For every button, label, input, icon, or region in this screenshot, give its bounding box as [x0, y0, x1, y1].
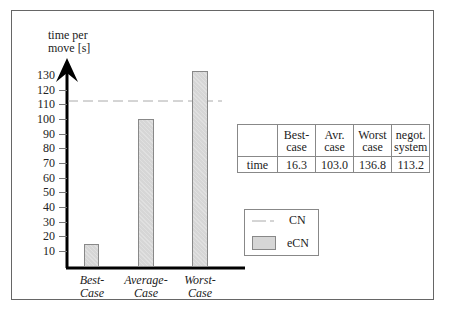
- tick-mark: [59, 163, 67, 164]
- tick-mark: [59, 119, 67, 120]
- tick-label: 10: [31, 244, 55, 259]
- tick-mark: [59, 222, 67, 223]
- x-label-line: Case: [62, 287, 122, 300]
- legend: CN eCN: [244, 209, 319, 256]
- table-header-row: Best-case Avr.case Worstcase negot.syste…: [238, 125, 430, 157]
- table-cell: 113.2: [392, 157, 430, 173]
- tick-label: 30: [31, 215, 55, 230]
- tick-mark: [59, 134, 67, 135]
- table-row: time 16.3 103.0 136.8 113.2: [238, 157, 430, 173]
- tick-mark: [59, 207, 67, 208]
- legend-label-cn: CN: [289, 213, 306, 228]
- bar-worst-case: [192, 71, 208, 267]
- table-header-cell: Avr.case: [316, 125, 354, 157]
- tick-label: 80: [31, 141, 55, 156]
- table-cell: 136.8: [354, 157, 392, 173]
- tick-mark: [59, 148, 67, 149]
- tick-mark: [59, 90, 67, 91]
- tick-mark: [59, 192, 67, 193]
- tick-label: 130: [31, 68, 55, 83]
- x-label-best-case: Best- Case: [62, 274, 122, 300]
- table-cell: 16.3: [278, 157, 316, 173]
- tick-label: 110: [31, 97, 55, 112]
- cn-legend-line-icon: [252, 219, 274, 223]
- bar-average-case: [138, 119, 154, 267]
- tick-label: 90: [31, 127, 55, 142]
- table-header-cell: [238, 125, 278, 157]
- tick-label: 70: [31, 156, 55, 171]
- ecn-legend-swatch-icon: [252, 236, 276, 250]
- table-header-cell: negot.system: [392, 125, 430, 157]
- x-label-worst-case: Worst- Case: [170, 274, 230, 300]
- x-label-line: Case: [116, 287, 176, 300]
- tick-label: 50: [31, 185, 55, 200]
- bar-best-case: [84, 244, 99, 267]
- table-header-cell: Best-case: [278, 125, 316, 157]
- table-cell: time: [238, 157, 278, 173]
- table-header-cell: Worstcase: [354, 125, 392, 157]
- tick-mark: [59, 236, 67, 237]
- tick-mark: [59, 104, 67, 105]
- x-label-line: Case: [170, 287, 230, 300]
- results-table: Best-case Avr.case Worstcase negot.syste…: [237, 124, 430, 173]
- x-label-average-case: Average- Case: [116, 274, 176, 300]
- tick-label: 60: [31, 171, 55, 186]
- tick-label: 20: [31, 229, 55, 244]
- tick-label: 120: [31, 83, 55, 98]
- table-cell: 103.0: [316, 157, 354, 173]
- tick-mark: [59, 251, 67, 252]
- tick-label: 40: [31, 200, 55, 215]
- tick-mark: [59, 178, 67, 179]
- tick-label: 100: [31, 112, 55, 127]
- legend-label-ecn: eCN: [287, 236, 309, 251]
